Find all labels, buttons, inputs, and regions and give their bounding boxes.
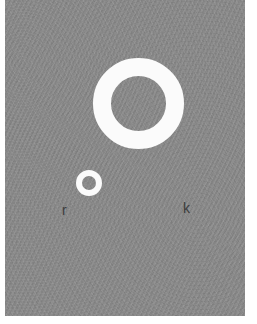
annotation-layer: r k	[5, 0, 245, 316]
figure-root: r k	[0, 0, 257, 324]
small-ring-shape	[76, 170, 102, 196]
small-ring-label: r	[62, 203, 67, 217]
large-ring-label: k	[183, 201, 190, 215]
large-ring-shape	[93, 58, 184, 149]
gray-canvas-plate: r k	[5, 0, 245, 316]
